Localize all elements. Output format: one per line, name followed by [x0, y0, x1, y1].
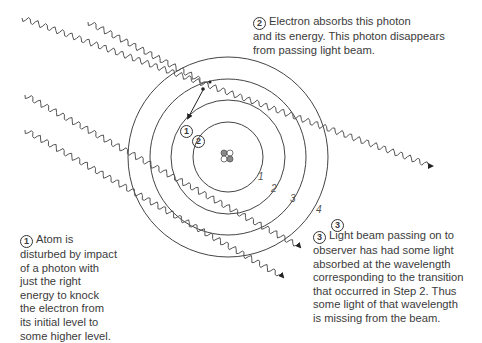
ring-label-4: 4 — [316, 204, 322, 215]
caption-step1-line: disturbed by impact — [20, 248, 117, 262]
caption-step3-line: that occurred in Step 2. Thus — [313, 285, 464, 299]
caption-step2-line: and its energy. This photon disappears — [253, 30, 445, 44]
ring-label-2: 2 — [271, 183, 277, 194]
transition-arrow — [188, 90, 203, 118]
caption-step1-line: just the right — [20, 275, 117, 289]
caption-step2-line: Electron absorbs this photon — [269, 15, 411, 27]
caption-step1-number: 1 — [20, 235, 33, 248]
caption-step2-number: 2 — [253, 17, 266, 30]
caption-step1: 1Atom is disturbed by impact of a photon… — [20, 233, 117, 343]
caption-step3-line: Light beam passing on to — [329, 229, 454, 241]
caption-step1-line: its initial level to — [20, 316, 117, 330]
caption-step3-line: is missing from the beam. — [313, 312, 464, 326]
caption-step1-line: some higher level. — [20, 330, 117, 343]
electron-marker — [209, 81, 212, 84]
ring-label-3: 3 — [290, 193, 296, 204]
caption-step3-line: absorbed at the wavelength — [313, 258, 464, 272]
caption-step3-line: observer has had some light — [313, 244, 464, 258]
step2-number: 2 — [192, 135, 205, 148]
caption-step3-line: corresponding to the transition — [313, 271, 464, 285]
caption-step1-line: of a photon with — [20, 262, 117, 276]
caption-step1-line: Atom is — [36, 233, 73, 245]
caption-step2-line: from passing light beam. — [253, 44, 445, 58]
nucleus-icon — [221, 150, 233, 162]
caption-step1-line: energy to knock — [20, 289, 117, 303]
caption-step3: 3Light beam passing on to observer has h… — [313, 229, 464, 326]
caption-step2: 2Electron absorbs this photon and its en… — [253, 15, 445, 57]
step2-marker: 2 — [192, 129, 208, 148]
photon-wave-absorbed — [88, 22, 208, 84]
caption-step3-line: some light of that wavelength — [313, 298, 464, 312]
ring-label-1: 1 — [258, 171, 264, 182]
caption-step3-number: 3 — [313, 231, 326, 244]
caption-step1-line: the electron from — [20, 302, 117, 316]
